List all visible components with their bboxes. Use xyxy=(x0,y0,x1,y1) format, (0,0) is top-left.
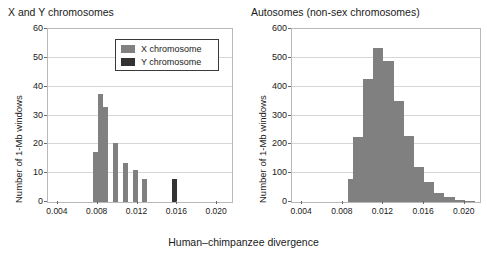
y-tick-label: 400 xyxy=(257,82,287,91)
histogram-bar xyxy=(123,163,128,202)
figure-container: X and Y chromosomes Number of 1-Mb windo… xyxy=(0,0,487,255)
x-axis-title: Human–chimpanzee divergence xyxy=(0,236,487,248)
bar-group-autosomes xyxy=(292,29,480,202)
x-tick-mark xyxy=(342,201,343,204)
y-tick-mark xyxy=(44,172,47,173)
y-tick-mark xyxy=(288,115,291,116)
x-tick-mark xyxy=(423,201,424,204)
y-tick-label: 10 xyxy=(17,168,43,177)
x-tick-mark xyxy=(57,201,58,204)
y-tick-label: 500 xyxy=(257,53,287,62)
y-tick-label: 100 xyxy=(257,168,287,177)
histogram-bar xyxy=(103,107,108,202)
y-tick-label: 30 xyxy=(17,111,43,120)
y-tick-mark xyxy=(288,201,291,202)
y-tick-mark xyxy=(44,28,47,29)
x-tick-label: 0.020 xyxy=(199,207,233,216)
y-tick-mark xyxy=(44,86,47,87)
histogram-bar xyxy=(470,201,475,202)
x-tick-mark xyxy=(97,201,98,204)
x-tick-label: 0.012 xyxy=(120,207,154,216)
y-tick-label: 40 xyxy=(17,82,43,91)
y-tick-mark xyxy=(288,86,291,87)
x-tick-label: 0.020 xyxy=(447,207,481,216)
y-tick-mark xyxy=(288,172,291,173)
y-tick-label: 20 xyxy=(17,139,43,148)
y-tick-mark xyxy=(44,57,47,58)
y-tick-mark xyxy=(288,57,291,58)
panel-autosomes: Autosomes (non-sex chromosomes) Number o… xyxy=(245,0,487,225)
y-tick-mark xyxy=(44,143,47,144)
x-tick-mark xyxy=(301,201,302,204)
x-tick-label: 0.016 xyxy=(159,207,193,216)
legend-label-y-chromosome: Y chromosome xyxy=(141,58,201,67)
y-tick-label: 60 xyxy=(17,24,43,33)
legend-swatch-x-chromosome xyxy=(121,45,135,53)
y-tick-label: 200 xyxy=(257,139,287,148)
y-tick-label: 50 xyxy=(17,53,43,62)
y-tick-mark xyxy=(44,115,47,116)
x-tick-label: 0.004 xyxy=(40,207,74,216)
plot-area-autosomes xyxy=(291,28,481,203)
y-tick-mark xyxy=(44,201,47,202)
panel-sex-chromosomes: X and Y chromosomes Number of 1-Mb windo… xyxy=(0,0,240,225)
x-tick-label: 0.008 xyxy=(325,207,359,216)
y-tick-mark xyxy=(288,28,291,29)
legend-item-y-chromosome: Y chromosome xyxy=(121,56,213,68)
histogram-bar xyxy=(172,179,177,202)
legend-item-x-chromosome: X chromosome xyxy=(121,43,213,55)
x-tick-mark xyxy=(464,201,465,204)
x-tick-mark xyxy=(216,201,217,204)
histogram-bar xyxy=(142,179,147,202)
legend: X chromosome Y chromosome xyxy=(115,39,219,71)
x-tick-mark xyxy=(382,201,383,204)
panel-title-sex-chromosomes: X and Y chromosomes xyxy=(8,6,114,18)
histogram-bar xyxy=(133,170,138,202)
y-tick-mark xyxy=(288,143,291,144)
y-tick-label: 300 xyxy=(257,111,287,120)
legend-swatch-y-chromosome xyxy=(121,58,135,66)
y-tick-label: 0 xyxy=(257,197,287,206)
x-tick-mark xyxy=(137,201,138,204)
x-tick-mark xyxy=(176,201,177,204)
x-tick-label: 0.012 xyxy=(365,207,399,216)
x-tick-label: 0.008 xyxy=(80,207,114,216)
y-tick-label: 600 xyxy=(257,24,287,33)
x-tick-label: 0.004 xyxy=(284,207,318,216)
histogram-bar xyxy=(113,143,118,202)
panel-title-autosomes: Autosomes (non-sex chromosomes) xyxy=(251,6,420,18)
legend-label-x-chromosome: X chromosome xyxy=(141,45,202,54)
y-tick-label: 0 xyxy=(17,197,43,206)
x-tick-label: 0.016 xyxy=(406,207,440,216)
